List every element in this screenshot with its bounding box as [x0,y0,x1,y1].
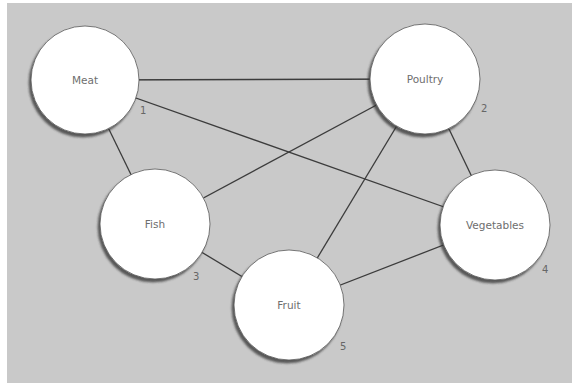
node-label: Vegetables [466,219,524,231]
node-number-label: 2 [481,103,487,114]
node-label: Fish [145,218,165,230]
node-number-label: 5 [340,341,346,352]
node-number-label: 3 [193,271,199,282]
node-label: Poultry [407,73,444,85]
node-number-label: 4 [542,264,548,275]
node-vegetables: Vegetables4 [440,170,550,280]
node-label: Fruit [277,299,300,311]
food-network-diagram: Meat1Poultry2Fish3Vegetables4Fruit5 [0,0,580,388]
node-label: Meat [72,74,98,86]
node-number-label: 1 [140,105,146,116]
